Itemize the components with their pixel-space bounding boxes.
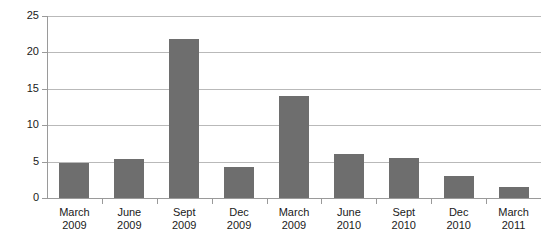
x-label-year: 2009 (267, 219, 322, 232)
bar-chart: 0510152025 March2009June2009Sept2009Dec2… (0, 0, 553, 243)
bar[interactable] (169, 39, 199, 198)
bar[interactable] (334, 154, 364, 198)
x-label-year: 2010 (376, 219, 431, 232)
x-label-year: 2010 (431, 219, 486, 232)
x-label-year: 2010 (321, 219, 376, 232)
bar-slot (267, 16, 322, 198)
bar[interactable] (499, 187, 529, 198)
x-axis-tick (267, 199, 268, 204)
bar-slot (157, 16, 212, 198)
bar-slot (376, 16, 431, 198)
bar[interactable] (224, 167, 254, 198)
x-axis-tick (321, 199, 322, 204)
bar-slot (431, 16, 486, 198)
bars-layer (47, 16, 541, 198)
x-axis-line (47, 198, 541, 199)
y-axis-tick-label: 10 (0, 119, 39, 130)
y-axis-tick-label: 20 (0, 46, 39, 57)
bar-slot (321, 16, 376, 198)
x-axis-tick (431, 199, 432, 204)
x-label-year: 2009 (157, 219, 212, 232)
x-label-month: June (102, 206, 157, 219)
x-label-month: Sept (376, 206, 431, 219)
x-label-month: March (486, 206, 541, 219)
bar[interactable] (389, 158, 419, 198)
bar-slot (212, 16, 267, 198)
bar[interactable] (279, 96, 309, 198)
x-label-month: Dec (431, 206, 486, 219)
x-label-month: March (47, 206, 102, 219)
x-label-month: June (321, 206, 376, 219)
x-axis-tick (376, 199, 377, 204)
bar[interactable] (59, 163, 89, 198)
bar-slot (47, 16, 102, 198)
y-axis-tick-label: 0 (0, 192, 39, 203)
x-axis-tick-label: June2010 (321, 206, 376, 232)
bar-slot (102, 16, 157, 198)
x-label-month: Sept (157, 206, 212, 219)
x-axis-tick-label: March2009 (267, 206, 322, 232)
x-label-month: Dec (212, 206, 267, 219)
y-axis-tick-label: 25 (0, 10, 39, 21)
x-label-year: 2009 (47, 219, 102, 232)
x-axis-tick-label: March2009 (47, 206, 102, 232)
y-axis-tick-label: 15 (0, 83, 39, 94)
y-axis-tick-label: 5 (0, 156, 39, 167)
x-axis-tick (486, 199, 487, 204)
x-axis-tick-label: Dec2010 (431, 206, 486, 232)
x-axis-tick-label: March2011 (486, 206, 541, 232)
x-axis-tick (212, 199, 213, 204)
x-axis-tick (102, 199, 103, 204)
bar[interactable] (114, 159, 144, 198)
x-axis-tick (157, 199, 158, 204)
x-label-year: 2009 (212, 219, 267, 232)
x-axis-tick-label: Sept2010 (376, 206, 431, 232)
bar[interactable] (444, 176, 474, 198)
bar-slot (486, 16, 541, 198)
x-label-year: 2009 (102, 219, 157, 232)
x-axis-tick-label: Sept2009 (157, 206, 212, 232)
x-label-month: March (267, 206, 322, 219)
x-axis-tick-label: June2009 (102, 206, 157, 232)
x-axis-tick-label: Dec2009 (212, 206, 267, 232)
x-label-year: 2011 (486, 219, 541, 232)
